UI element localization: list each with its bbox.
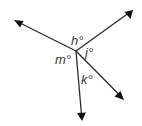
arrowhead-icon — [115, 91, 125, 100]
angle-label-j: j° — [83, 45, 93, 60]
angle-diagram: h° j° m° k° — [0, 0, 142, 126]
arrowhead-icon — [77, 113, 86, 122]
ray-upper-left — [14, 20, 76, 51]
angle-label-k: k° — [81, 72, 93, 87]
angle-label-h: h° — [71, 33, 83, 48]
angle-label-m: m° — [55, 52, 71, 67]
